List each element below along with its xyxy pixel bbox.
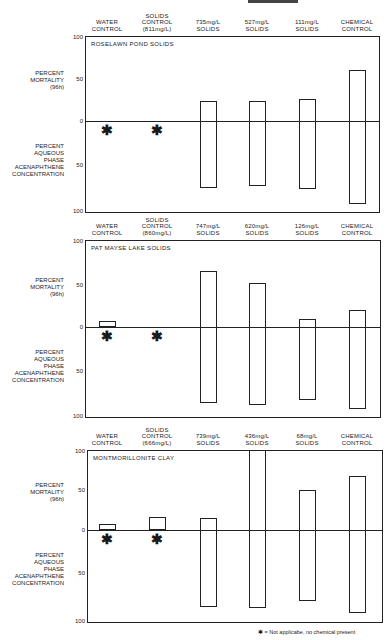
y-tick-label: 50 (63, 282, 83, 288)
category-label: 620mg/L SOLIDS (231, 223, 283, 236)
category-label: 126mg/L SOLIDS (281, 223, 333, 236)
scan-artifact (248, 0, 298, 3)
category-label: WATER CONTROL (81, 223, 133, 236)
bar (200, 271, 217, 403)
category-label: 735mg/L SOLIDS (182, 19, 234, 32)
bar (99, 524, 116, 530)
category-label: SOLIDS CONTROL (811mg/L) (131, 13, 183, 33)
bar (249, 101, 266, 187)
asterisk-icon: ✱ (100, 329, 114, 343)
y-axis-label-mortality: PERCENT MORTALITY (96h) (0, 482, 64, 503)
y-tick-label: 50 (63, 162, 83, 168)
category-label: WATER CONTROL (81, 19, 133, 32)
y-tick-label: 50 (65, 570, 85, 576)
y-tick-label: 50 (65, 487, 85, 493)
y-tick-label: 100 (63, 413, 83, 419)
panel-frame (87, 450, 383, 623)
footnote: ✱ = Not applicabe, no chemical present (258, 629, 355, 635)
panel-frame (85, 240, 381, 418)
zero-line (85, 121, 380, 122)
category-label: 111mg/L SOLIDS (281, 19, 333, 32)
y-axis-label-mortality: PERCENT MORTALITY (96h) (0, 70, 64, 91)
asterisk-icon: ✱ (150, 329, 164, 343)
asterisk-icon: ✱ (258, 629, 263, 635)
y-tick-label: 0 (63, 118, 83, 124)
y-tick-label: 50 (63, 368, 83, 374)
bar (349, 310, 366, 409)
category-label: 68mg/L SOLIDS (281, 433, 333, 446)
y-axis-label-concentration: PERCENT AQUEOUS PHASE ACENAPHTHENE CONCE… (0, 349, 64, 384)
y-tick-label: 100 (63, 34, 83, 40)
y-tick-label: 100 (65, 448, 85, 454)
y-tick-label: 0 (65, 527, 85, 533)
panel-title: PAT MAYSE LAKE SOLIDS (91, 245, 171, 251)
bar (249, 450, 266, 608)
category-label: SOLIDS CONTROL (860mg/L) (131, 217, 183, 237)
bar (299, 99, 316, 189)
category-label: 747mg/L SOLIDS (182, 223, 234, 236)
asterisk-icon: ✱ (100, 123, 114, 137)
panel-frame (85, 36, 380, 213)
category-label: 527mg/L SOLIDS (231, 19, 283, 32)
y-tick-label: 50 (63, 76, 83, 82)
bar (299, 319, 316, 400)
category-label: CHEMICAL CONTROL (331, 433, 383, 446)
y-tick-label: 0 (63, 324, 83, 330)
bar (349, 476, 366, 613)
y-tick-label: 100 (63, 208, 83, 214)
footnote-text: = Not applicabe, no chemical present (265, 629, 356, 635)
y-axis-label-mortality: PERCENT MORTALITY (96h) (0, 277, 64, 298)
asterisk-icon: ✱ (150, 123, 164, 137)
asterisk-icon: ✱ (150, 532, 164, 546)
bar (200, 101, 217, 188)
bar (349, 70, 366, 204)
category-label: CHEMICAL CONTROL (331, 19, 383, 32)
zero-line (85, 327, 381, 328)
category-label: 739mg/L SOLIDS (182, 433, 234, 446)
y-axis-label-concentration: PERCENT AQUEOUS PHASE ACENAPHTHENE CONCE… (0, 143, 64, 178)
y-axis-label-concentration: PERCENT AQUEOUS PHASE ACENAPHTHENE CONCE… (0, 552, 64, 587)
panel-title: MONTMORILLONITE CLAY (93, 455, 174, 461)
bar (200, 518, 217, 607)
category-label: SOLIDS CONTROL (666mg/L) (131, 427, 183, 447)
zero-line (87, 530, 383, 531)
bar (99, 321, 116, 327)
bar (149, 517, 166, 530)
category-label: CHEMICAL CONTROL (331, 223, 383, 236)
panel-title: ROSELAWN POND SOLIDS (91, 41, 174, 47)
bar (299, 490, 316, 601)
y-tick-label: 100 (65, 618, 85, 624)
category-label: 436mg/L SOLIDS (231, 433, 283, 446)
bar (249, 283, 266, 405)
y-tick-label: 100 (63, 238, 83, 244)
asterisk-icon: ✱ (100, 532, 114, 546)
category-label: WATER CONTROL (81, 433, 133, 446)
